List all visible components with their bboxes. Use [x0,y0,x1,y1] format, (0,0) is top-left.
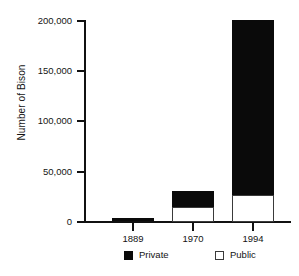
legend-label-public: Public [230,250,256,260]
y-tick-label: 0 [0,217,72,227]
legend-entry-private: Private [124,250,169,260]
legend-swatch-private-icon [124,251,133,260]
bar-segment-public-1994 [232,195,274,222]
legend-label-private: Private [139,250,169,260]
x-tick-mark [252,223,254,231]
y-axis-title: Number of Bison [16,38,27,168]
y-tick-mark [77,70,85,72]
y-tick-label: 100,000 [0,116,72,126]
legend-entry-public: Public [215,250,256,260]
y-tick-label: 50,000 [0,167,72,177]
x-tick-mark [192,223,194,231]
bar-segment-private-1889 [112,218,154,221]
bar-segment-private-1970 [172,191,214,207]
y-tick-mark [77,171,85,173]
bison-population-chart: Number of Bison 200,000 150,000 100,000 … [0,0,299,276]
y-tick-label: 200,000 [0,16,72,26]
bar-segment-private-1994 [232,20,274,195]
y-tick-mark [77,20,85,22]
legend-swatch-public-icon [215,251,224,260]
chart-legend: Private Public [84,250,291,266]
y-tick-mark [77,221,85,223]
x-tick-label: 1994 [223,234,283,244]
x-tick-mark [132,223,134,231]
y-tick-mark [77,120,85,122]
x-tick-label: 1889 [103,234,163,244]
bar-segment-public-1970 [172,207,214,222]
y-tick-label: 150,000 [0,66,72,76]
x-tick-label: 1970 [163,234,223,244]
